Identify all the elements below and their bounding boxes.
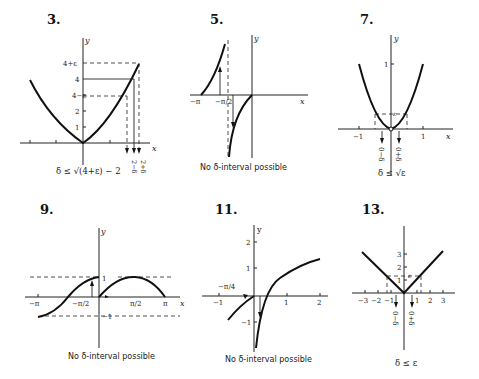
svg-text:ε: ε [408,272,411,279]
svg-text:1: 1 [421,133,425,141]
svg-text:−2: −2 [371,297,381,305]
svg-text:−1: −1 [241,319,251,327]
svg-text:1: 1 [102,275,106,283]
graph-9-plot: y x 1 −1 −π −π/2 π/2 π [0,190,190,379]
graph-5-plot: y x −π −π/2 [170,0,320,190]
svg-text:0+δ: 0+δ [394,147,402,162]
svg-text:y: y [393,34,399,43]
svg-text:4−ε: 4−ε [72,92,86,100]
graph-panel-7: 7. y x 1 ε −1 1 0−δ 0+δ δ ≤ √ε [320,0,479,190]
graph-13-plot: ε 1 2 3 −3 −2 −1 1 2 3 0−δ 0+δ [320,190,479,379]
svg-text:2: 2 [75,108,79,116]
svg-text:−1: −1 [353,133,363,141]
svg-text:1: 1 [384,61,388,69]
svg-text:y: y [256,225,262,234]
svg-text:−1: −1 [384,297,394,305]
graph-panel-3: 3. y x 1 2 4−ε 4 4+ε 2−δ 2+δ δ ≤ √(4+ε) … [0,0,170,190]
graph-panel-11: 11. y 2 1 −1 −1 1 2 −π/4 No δ-interval p… [180,190,330,379]
svg-text:x: x [446,132,451,141]
svg-text:y: y [84,36,90,45]
svg-text:3: 3 [397,251,401,259]
svg-text:0+δ: 0+δ [407,311,415,326]
graph-panel-13: 13. ε 1 2 3 −3 −2 −1 1 2 3 0−δ 0+δ δ ≤ ε [320,190,479,379]
delta-bound-caption: δ ≤ √ε [378,168,405,178]
svg-text:x: x [300,97,305,106]
svg-text:2: 2 [428,297,432,305]
svg-text:−π/2: −π/2 [72,300,89,308]
svg-text:1: 1 [284,299,288,307]
delta-bound-caption: δ ≤ √(4+ε) − 2 [56,166,121,176]
delta-bound-caption: δ ≤ ε [395,358,417,368]
svg-text:−3: −3 [358,297,368,305]
svg-text:1: 1 [415,297,419,305]
svg-text:4+ε: 4+ε [63,60,77,68]
svg-text:3: 3 [441,297,445,305]
svg-text:0−δ: 0−δ [377,147,385,162]
graph-11-plot: y 2 1 −1 −1 1 2 −π/4 [180,190,330,379]
no-delta-caption: No δ-interval possible [225,355,312,364]
svg-text:x: x [152,144,157,153]
svg-text:4: 4 [75,76,80,84]
no-delta-caption: No δ-interval possible [200,163,287,172]
svg-text:1: 1 [246,265,250,273]
graph-panel-5: 5. y x −π −π/2 No δ-interval possible [170,0,320,190]
svg-text:2: 2 [246,239,250,247]
svg-text:−1: −1 [102,313,112,321]
graph-3-plot: y x 1 2 4−ε 4 4+ε 2−δ 2+δ [0,0,170,190]
svg-text:y: y [253,34,259,43]
graph-panel-9: 9. y x 1 −1 −π −π/2 π/2 π No δ-interval … [0,190,190,379]
svg-text:ε: ε [393,110,396,117]
graph-7-plot: y x 1 ε −1 1 0−δ 0+δ [320,0,479,190]
svg-text:2+δ: 2+δ [139,160,147,174]
svg-text:−π/2: −π/2 [215,98,232,106]
no-delta-caption: No δ-interval possible [68,352,155,361]
svg-text:0−δ: 0−δ [391,311,399,326]
svg-text:1: 1 [397,277,401,285]
svg-text:π/2: π/2 [130,300,141,308]
svg-text:−π: −π [29,300,40,308]
svg-text:2−δ: 2−δ [130,160,138,174]
svg-text:−π: −π [190,98,201,106]
svg-text:1: 1 [75,124,79,132]
svg-text:−π/4: −π/4 [218,283,236,291]
svg-text:y: y [100,227,106,236]
svg-text:2: 2 [397,264,401,272]
svg-text:π: π [163,300,168,308]
svg-text:−1: −1 [213,299,223,307]
